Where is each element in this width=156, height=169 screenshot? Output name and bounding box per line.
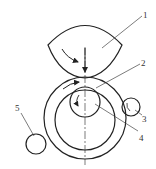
mechanism-diagram: 1 2 3 4 5: [0, 0, 156, 169]
label-4: 4: [139, 133, 144, 143]
upper-roller-rotation-arrow: [62, 49, 78, 62]
inner-roller-rotation-arrow: [77, 95, 79, 106]
leader-line-4: [95, 104, 138, 131]
label-2: 2: [141, 58, 146, 68]
leader-line-2: [96, 64, 140, 88]
small-roller-right-rotation-arrow: [127, 103, 130, 111]
small-roller-left: [26, 134, 46, 154]
leader-line-5: [21, 113, 34, 136]
outer-ring-rotation-arrow: [63, 82, 79, 89]
leader-line-1: [102, 16, 142, 48]
label-5: 5: [15, 103, 20, 113]
label-1: 1: [143, 10, 148, 20]
label-3: 3: [142, 114, 147, 124]
